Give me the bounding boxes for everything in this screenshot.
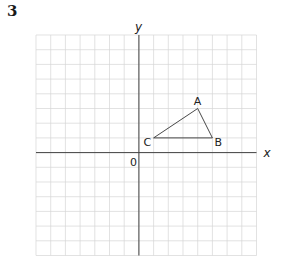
vertex-label-b: B — [214, 136, 222, 149]
vertex-label-a: A — [194, 95, 202, 108]
x-axis-label: x — [263, 146, 272, 160]
vertex-label-c: C — [144, 136, 152, 149]
coordinate-grid: xy0ABC — [0, 0, 289, 261]
origin-label: 0 — [130, 156, 137, 169]
y-axis-label: y — [134, 20, 143, 34]
